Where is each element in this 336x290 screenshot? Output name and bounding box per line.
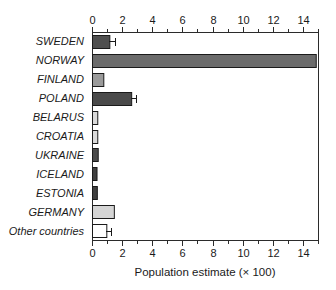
x-tick-label-bottom: 6 [179,247,185,259]
category-label-estonia: ESTONIA [36,187,84,199]
category-label-other-countries: Other countries [9,225,85,237]
x-tick-label-bottom: 0 [89,247,95,259]
x-tick-label-bottom: 14 [297,247,309,259]
x-tick-label-top: 8 [210,14,216,26]
bar-croatia [93,131,98,144]
category-label-finland: FINLAND [37,73,84,85]
category-label-sweden: SWEDEN [36,35,84,47]
x-tick-label-top: 0 [89,14,95,26]
x-tick-label-bottom: 12 [267,247,279,259]
bar-sweden [93,36,110,49]
x-tick-label-bottom: 2 [119,247,125,259]
category-label-iceland: ICELAND [36,168,84,180]
x-tick-label-bottom: 8 [210,247,216,259]
bar-belarus [93,112,98,125]
bar-estonia [93,187,98,200]
x-tick-label-top: 4 [149,14,155,26]
x-tick-label-bottom: 4 [149,247,155,259]
x-tick-label-top: 2 [119,14,125,26]
category-label-ukraine: UKRAINE [35,149,85,161]
bar-iceland [93,168,98,181]
x-tick-label-top: 10 [237,14,249,26]
category-label-poland: POLAND [39,92,84,104]
category-label-belarus: BELARUS [33,111,85,123]
bar-finland [93,74,104,87]
category-label-croatia: CROATIA [36,130,84,142]
bar-other-countries [93,225,107,238]
bar-norway [93,55,317,68]
bar-germany [93,206,115,219]
x-tick-label-top: 6 [179,14,185,26]
bar-chart-figure: 0022446688101012121414SWEDENNORWAYFINLAN… [0,0,336,290]
bar-poland [93,93,132,106]
x-tick-label-top: 12 [267,14,279,26]
category-label-germany: GERMANY [28,206,84,218]
chart-canvas: 0022446688101012121414SWEDENNORWAYFINLAN… [0,0,336,290]
x-tick-label-bottom: 10 [237,247,249,259]
x-axis-title: Population estimate (× 100) [135,266,276,278]
x-tick-label-top: 14 [297,14,309,26]
bar-ukraine [93,149,99,162]
category-label-norway: NORWAY [36,54,85,66]
